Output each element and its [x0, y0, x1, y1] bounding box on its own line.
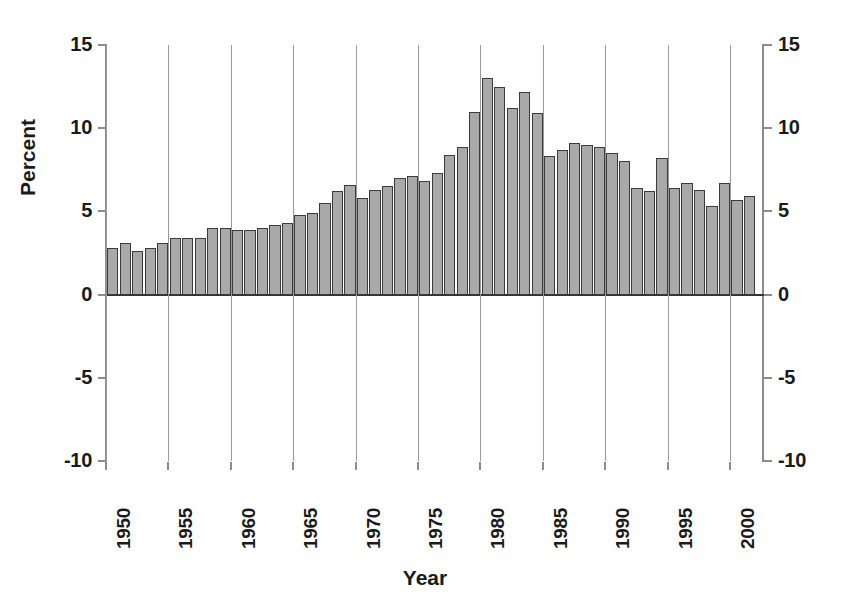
bar	[195, 238, 206, 295]
bar	[594, 147, 605, 295]
bar	[744, 196, 755, 294]
bar	[419, 181, 430, 294]
x-axis-title: Year	[0, 566, 850, 590]
bar	[170, 238, 181, 295]
bar	[382, 186, 393, 294]
bar	[669, 188, 680, 294]
bar	[494, 87, 505, 295]
bar	[731, 200, 742, 295]
bar	[457, 147, 468, 295]
bar	[557, 150, 568, 295]
chart-figure: Percent 151050-5-10 151050-5-10 19501955…	[0, 0, 850, 602]
bar	[469, 112, 480, 295]
bar	[132, 251, 143, 294]
bar	[120, 243, 131, 295]
bar	[544, 156, 555, 294]
bar	[407, 176, 418, 294]
bar	[619, 161, 630, 294]
bar	[157, 243, 168, 295]
bar	[319, 203, 330, 295]
bar	[644, 191, 655, 294]
bar	[519, 92, 530, 295]
bar	[532, 113, 543, 294]
bar	[107, 248, 118, 295]
bar	[332, 191, 343, 294]
bar	[606, 153, 617, 294]
bar	[220, 228, 231, 295]
bar	[694, 190, 705, 295]
bar	[369, 190, 380, 295]
bar	[394, 178, 405, 294]
bar	[182, 238, 193, 295]
bar	[656, 158, 667, 294]
bar	[244, 230, 255, 295]
bar	[257, 228, 268, 295]
bar	[357, 198, 368, 295]
bar	[282, 223, 293, 295]
bar	[569, 143, 580, 294]
bar	[631, 188, 642, 294]
bar	[232, 230, 243, 295]
bar	[581, 145, 592, 295]
bar-series	[0, 0, 850, 602]
bar	[207, 228, 218, 295]
bar	[344, 185, 355, 295]
bar	[432, 173, 443, 294]
bar	[507, 108, 518, 294]
bar	[444, 155, 455, 295]
bar	[269, 225, 280, 295]
bar	[307, 213, 318, 295]
bar	[706, 206, 717, 294]
bar	[482, 78, 493, 294]
bar	[681, 183, 692, 294]
bar	[719, 183, 730, 294]
bar	[294, 215, 305, 295]
bar	[145, 248, 156, 295]
